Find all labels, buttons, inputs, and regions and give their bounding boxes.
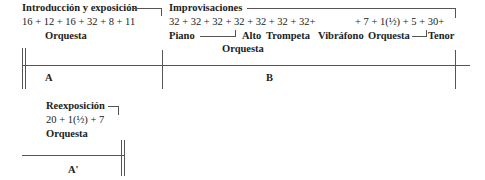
section-label-a-prime: A' (68, 164, 79, 175)
intro-bars: 16 + 12 + 16 + 32 + 8 + 11 (22, 16, 135, 28)
reexpo-title: Reexposición (46, 100, 105, 112)
reexpo-bracket (108, 106, 118, 107)
improv-bars-a: 32 + 32 + 32 + 32 + 32 + 32 + 32+ (169, 16, 315, 28)
intro-bracket (133, 8, 162, 9)
section-label-b: B (266, 72, 273, 83)
piano-bracket-tick (235, 30, 236, 37)
piano-bracket (200, 36, 235, 37)
final-double-bar-2 (124, 140, 125, 176)
instrument-alto: Alto (242, 30, 261, 42)
section-divider-a-b (162, 50, 163, 89)
intro-instrument: Orquesta (45, 30, 87, 42)
orquesta-bracket (412, 36, 426, 37)
section-end-b (455, 50, 456, 89)
improv-bracket (247, 8, 456, 9)
timeline-line (22, 65, 470, 66)
improv-bars-b: + 7 + 1(½) + 5 + 30+ (355, 16, 444, 28)
left-double-bar-1 (22, 48, 23, 89)
instrument-orquesta: Orquesta (368, 30, 410, 42)
reexpo-bracket-tick (118, 106, 119, 115)
intro-bracket-tick (161, 8, 162, 16)
instrument-trompeta: Trompeta (266, 30, 310, 42)
reexpo-bars: 20 + 1(½) + 7 (46, 114, 104, 126)
section-label-a: A (45, 72, 53, 83)
improv-title: Improvisaciones (169, 2, 242, 14)
improv-bracket-tick (455, 8, 456, 18)
orquesta-bracket-tick (426, 30, 427, 37)
improv-instrument-sub: Orquesta (222, 43, 264, 55)
instrument-piano: Piano (169, 30, 195, 42)
intro-title: Introducción y exposición (22, 2, 137, 14)
left-double-bar-2 (25, 48, 26, 89)
reexpo-line (22, 155, 124, 156)
reexpo-instrument: Orquesta (46, 128, 88, 140)
instrument-tenor: Tenor (428, 30, 454, 42)
final-double-bar-1 (121, 140, 122, 176)
instrument-vibrafono: Vibráfono (318, 30, 364, 42)
